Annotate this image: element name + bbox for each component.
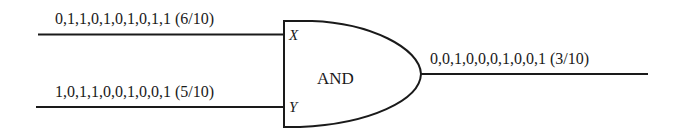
port-x-label: X — [289, 28, 298, 43]
input-x-label: 0,1,1,0,1,0,1,0,1,1 (6/10) — [55, 11, 214, 27]
port-y-label: Y — [289, 100, 297, 115]
output-label: 0,0,1,0,0,0,1,0,0,1 (3/10) — [430, 51, 589, 67]
input-y-label: 1,0,1,1,0,0,1,0,0,1 (5/10) — [55, 84, 214, 100]
gate-type-label: AND — [317, 70, 354, 87]
